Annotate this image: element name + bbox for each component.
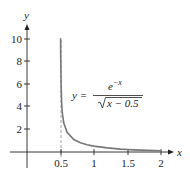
y-axis-label: y (23, 9, 29, 21)
x-tick-label: 2 (158, 157, 164, 169)
equation-denominator: x − 0.5 (106, 97, 139, 109)
x-axis-arrow-icon (168, 150, 174, 155)
y-tick-label: 4 (17, 100, 23, 112)
x-tick-label: 0.5 (54, 157, 68, 169)
function-plot: x y 0.5 1 1.5 2 2 4 6 8 10 y = e−x x − 0… (0, 0, 190, 177)
y-tick-label: 8 (17, 55, 23, 67)
y-tick-label: 2 (17, 123, 23, 135)
y-tick-label: 10 (11, 33, 23, 45)
x-tick-label: 1 (91, 157, 97, 169)
x-axis-label: x (176, 146, 182, 158)
x-tick-label: 1.5 (121, 157, 135, 169)
equation-annotation: y = e−x x − 0.5 (71, 78, 143, 109)
equation-numerator: e−x (108, 78, 122, 92)
y-tick-label: 6 (17, 78, 23, 90)
y-axis-arrow-icon (25, 24, 30, 30)
svg-text:y =: y = (71, 89, 87, 101)
